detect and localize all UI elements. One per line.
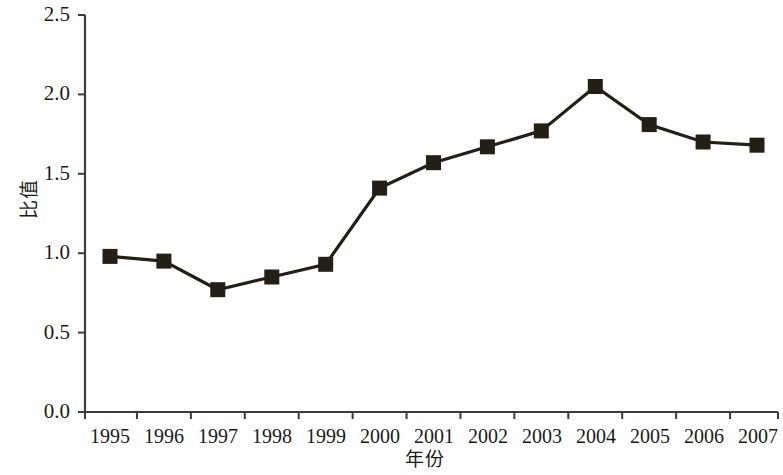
- line-chart: 比值 年份 2.5 2.0 1.5 1.0 0.5 0.0 1995 1996 …: [0, 0, 783, 475]
- data-point-marker: [534, 123, 549, 138]
- data-point-marker: [588, 79, 603, 94]
- data-point-marker: [642, 117, 657, 132]
- series-markers-ratio: [103, 79, 765, 297]
- data-point-marker: [210, 282, 225, 297]
- data-point-marker: [696, 135, 711, 150]
- data-point-marker: [103, 249, 118, 264]
- data-point-marker: [156, 254, 171, 269]
- data-point-marker: [480, 139, 495, 154]
- data-point-marker: [426, 155, 441, 170]
- plot-area: [0, 0, 783, 475]
- series-line-ratio: [110, 87, 757, 290]
- data-point-marker: [264, 270, 279, 285]
- data-point-marker: [318, 257, 333, 272]
- data-point-marker: [750, 138, 765, 153]
- data-point-marker: [372, 181, 387, 196]
- axis-lines: [85, 15, 778, 412]
